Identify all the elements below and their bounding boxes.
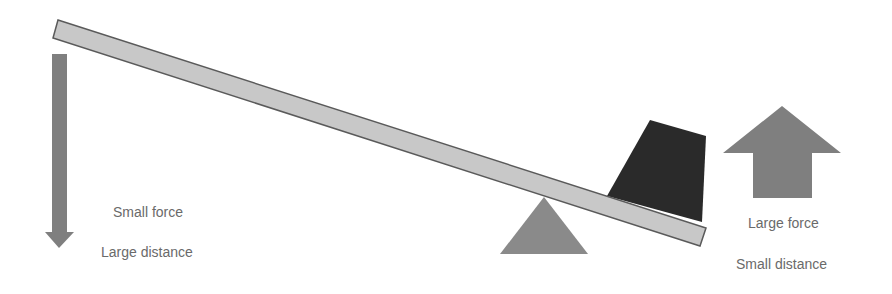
down-arrow-icon xyxy=(45,54,74,248)
right-force-label: Large force xyxy=(748,215,819,231)
left-force-label: Small force xyxy=(113,204,183,220)
right-distance-label: Small distance xyxy=(736,256,827,272)
up-arrow-icon xyxy=(723,106,841,198)
lever-diagram: Small force Large distance Large force S… xyxy=(0,0,892,294)
left-distance-label: Large distance xyxy=(101,244,193,260)
